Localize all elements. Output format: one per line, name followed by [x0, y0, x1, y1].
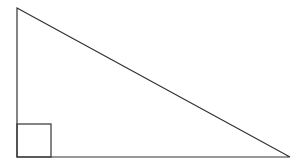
right-angle-marker	[17, 124, 51, 157]
triangle-diagram	[0, 0, 306, 165]
right-triangle	[17, 8, 290, 157]
